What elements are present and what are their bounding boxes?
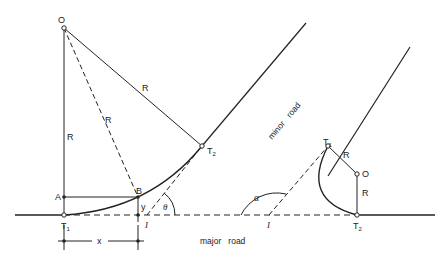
radius-o-t2 bbox=[64, 28, 202, 146]
label-o-right: O bbox=[362, 169, 369, 179]
label-a: A bbox=[55, 192, 61, 202]
junction-diagram: O R R R A B y T1 T2 I θ x T1 R O R T2 I … bbox=[0, 0, 447, 258]
dim-x-left bbox=[62, 239, 66, 243]
label-minor-road: minor road bbox=[266, 100, 303, 141]
label-t2-left: T2 bbox=[207, 146, 217, 157]
label-t2-right: T2 bbox=[353, 221, 363, 232]
angle-alpha-arc bbox=[241, 193, 286, 215]
point-o-left bbox=[62, 26, 66, 30]
point-a bbox=[62, 195, 66, 199]
curve-t1-t2 bbox=[64, 146, 202, 215]
minor-road-edge-right bbox=[328, 47, 410, 176]
point-t2-left bbox=[200, 144, 204, 148]
radius-o-b-dashed bbox=[64, 28, 138, 197]
label-r-right-vertical: R bbox=[362, 188, 369, 198]
label-r-right-upper: R bbox=[343, 150, 350, 160]
label-major-road: major road bbox=[200, 236, 246, 246]
label-y: y bbox=[141, 202, 146, 212]
label-r-dashed: R bbox=[105, 115, 112, 125]
tangent-i-t2-dashed bbox=[147, 146, 202, 215]
point-t2-right bbox=[355, 213, 359, 217]
label-x: x bbox=[97, 236, 102, 246]
label-alpha: α bbox=[254, 192, 260, 203]
dim-x-right bbox=[136, 239, 140, 243]
label-theta: θ bbox=[163, 202, 168, 212]
label-r-vertical: R bbox=[67, 132, 74, 142]
label-t1-left: T1 bbox=[61, 221, 71, 232]
label-r-upper: R bbox=[142, 83, 149, 93]
point-o-right bbox=[355, 172, 359, 176]
point-t1-left bbox=[62, 213, 66, 217]
point-b-foot bbox=[136, 213, 140, 217]
label-i-right: I bbox=[266, 220, 271, 230]
label-i-left: I bbox=[144, 220, 149, 230]
label-t1-right: T1 bbox=[323, 137, 333, 148]
curve-t1-t2-right bbox=[319, 146, 357, 215]
minor-road-edge-left bbox=[202, 23, 306, 146]
label-o-left: O bbox=[58, 15, 65, 25]
label-b: B bbox=[136, 186, 142, 196]
